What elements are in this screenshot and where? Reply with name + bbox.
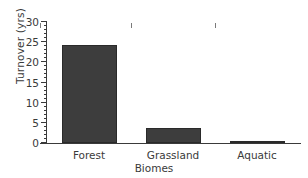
y-axis-minor-tick <box>44 49 47 50</box>
y-axis-minor-tick <box>44 37 47 38</box>
y-axis-tick-label: 10 <box>26 97 39 109</box>
x-axis-line <box>40 143 301 144</box>
y-axis-minor-tick <box>44 25 47 26</box>
x-axis-tick <box>131 23 132 28</box>
y-axis-major-tick <box>41 102 47 103</box>
bar <box>62 45 117 143</box>
y-axis-major-tick <box>41 82 47 83</box>
y-axis-minor-tick <box>44 86 47 87</box>
y-axis-minor-tick <box>44 106 47 107</box>
y-axis-tick-label: 5 <box>32 117 39 129</box>
y-axis-tick-label: 25 <box>26 36 39 48</box>
y-axis-minor-tick <box>44 130 47 131</box>
y-axis-minor-tick <box>44 33 47 34</box>
y-axis-minor-tick <box>44 138 47 139</box>
y-axis-title: Turnover (yrs) <box>14 0 26 101</box>
bar <box>230 141 285 143</box>
bar-chart: Turnover (yrs) 051015202530 Biomes Fores… <box>0 0 308 178</box>
y-axis-minor-tick <box>44 134 47 135</box>
x-axis-title: Biomes <box>0 162 308 174</box>
bar <box>146 128 201 143</box>
y-axis-major-tick <box>41 21 47 22</box>
y-axis-tick-label: 20 <box>26 56 39 68</box>
y-axis-minor-tick <box>44 110 47 111</box>
y-axis-minor-tick <box>44 77 47 78</box>
y-axis-minor-tick <box>44 57 47 58</box>
y-axis-minor-tick <box>44 114 47 115</box>
x-axis-tick <box>215 23 216 28</box>
y-axis-minor-tick <box>44 90 47 91</box>
y-axis-minor-tick <box>44 126 47 127</box>
x-axis-category-label: Forest <box>73 149 105 161</box>
y-axis-tick-label: 30 <box>26 16 39 28</box>
y-axis-minor-tick <box>44 45 47 46</box>
plot-area: 051015202530 <box>47 22 299 143</box>
y-axis-major-tick <box>41 122 47 123</box>
y-axis-major-tick <box>41 61 47 62</box>
y-axis-major-tick <box>41 41 47 42</box>
y-axis-major-tick <box>41 142 47 143</box>
y-axis-minor-tick <box>44 118 47 119</box>
y-axis-minor-tick <box>44 98 47 99</box>
x-axis-category-label: Aquatic <box>237 149 277 161</box>
y-axis-minor-tick <box>44 29 47 30</box>
y-axis-minor-tick <box>44 94 47 95</box>
x-axis-category-label: Grassland <box>147 149 200 161</box>
y-axis-tick-label: 0 <box>32 137 39 149</box>
y-axis-minor-tick <box>44 69 47 70</box>
y-axis-minor-tick <box>44 65 47 66</box>
y-axis-minor-tick <box>44 53 47 54</box>
x-axis-origin-tick <box>40 23 41 28</box>
y-axis-tick-label: 15 <box>26 77 39 89</box>
y-axis-minor-tick <box>44 73 47 74</box>
